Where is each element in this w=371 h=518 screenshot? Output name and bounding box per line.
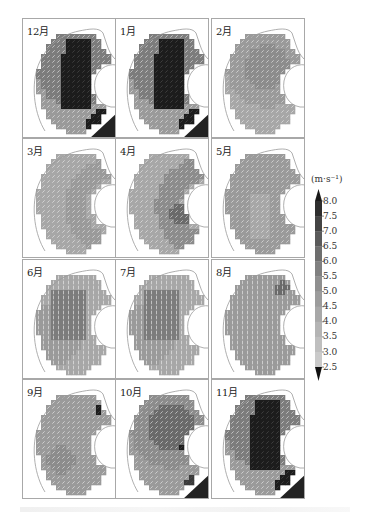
colorbar-tick-label: 3.0 [323,348,337,357]
month-label: 6月 [27,264,43,279]
month-label: 10月 [120,384,142,399]
month-panel: 3月 [22,138,116,258]
month-panel: 11月 [211,379,305,499]
colorbar-tick-label: 7.5 [323,212,337,221]
month-panel: 7月 [115,259,209,379]
month-label: 1月 [120,23,136,38]
month-label: 5月 [216,143,232,158]
month-panel: 6月 [22,259,116,379]
monthly-wind-figure: 12月1月2月3月4月5月6月7月8月9月10月11月 [22,18,305,498]
colorbar-tick-label: 6.5 [323,242,337,251]
month-label: 4月 [120,143,136,158]
month-panel: 2月 [211,18,305,138]
month-label: 8月 [216,264,232,279]
figure-caption-faded [20,507,350,512]
colorbar-tick-label: 5.5 [323,272,337,281]
colorbar-tick-label: 4.0 [323,317,337,326]
colorbar-tick-label: 5.0 [323,287,337,296]
month-label: 11月 [216,384,238,399]
colorbar-tick-label: 8.0 [323,197,337,206]
month-panel: 9月 [22,379,116,499]
month-label: 2月 [216,23,232,38]
month-panel: 8月 [211,259,305,379]
month-label: 7月 [120,264,136,279]
colorbar-tick-label: 3.5 [323,332,337,341]
month-panel: 4月 [115,138,209,258]
colorbar-tick-label: 4.5 [323,302,337,311]
colorbar-unit: (m·s⁻¹) [311,174,342,184]
month-label: 9月 [27,384,43,399]
month-panel: 10月 [115,379,209,499]
month-panel: 5月 [211,138,305,258]
month-panel: 1月 [115,18,209,138]
colorbar-tick-label: 6.0 [323,257,337,266]
colorbar-tick-label: 2.5 [323,363,337,372]
month-label: 3月 [27,143,43,158]
colorbar-tick-label: 7.0 [323,227,337,236]
colorbar-legend: (m·s⁻¹) 8.07.57.06.56.05.55.04.54.03.53.… [300,172,370,392]
month-label: 12月 [27,23,49,38]
month-panel: 12月 [22,18,116,138]
